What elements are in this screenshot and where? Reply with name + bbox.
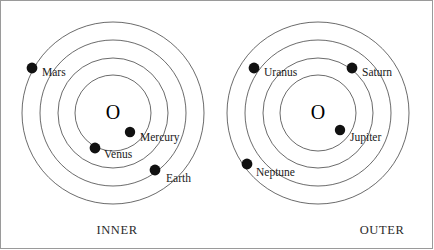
planet-label-uranus: Uranus [264,66,298,78]
outer-system: OUranusSaturnJupiterNeptuneOUTER [227,22,409,237]
diagram-canvas: OMarsMercuryVenusEarthINNEROUranusSaturn… [0,0,434,250]
planet-label-earth: Earth [166,172,191,184]
planet-label-saturn: Saturn [362,66,392,78]
inner-system: OMarsMercuryVenusEarthINNER [22,22,204,237]
system-caption-outer: OUTER [360,223,405,237]
planet-dot-mercury [125,127,135,137]
system-caption-inner: INNER [96,223,137,237]
planet-label-neptune: Neptune [256,166,295,179]
planet-dot-mars [27,63,38,74]
planet-label-mars: Mars [42,66,66,78]
planet-dot-jupiter [335,125,345,135]
planet-dot-saturn [347,63,358,74]
sun-glyph: O [106,101,120,123]
orbit-diagram-figure: OMarsMercuryVenusEarthINNEROUranusSaturn… [0,0,434,250]
planet-dot-venus [90,143,101,154]
planet-label-jupiter: Jupiter [350,131,381,144]
planet-label-mercury: Mercury [140,131,180,144]
planet-dot-neptune [242,159,253,170]
systems-layer: OMarsMercuryVenusEarthINNEROUranusSaturn… [22,22,409,237]
sun-glyph: O [311,101,325,123]
planet-dot-uranus [249,63,260,74]
planet-label-venus: Venus [104,148,133,160]
planet-dot-earth [150,165,161,176]
